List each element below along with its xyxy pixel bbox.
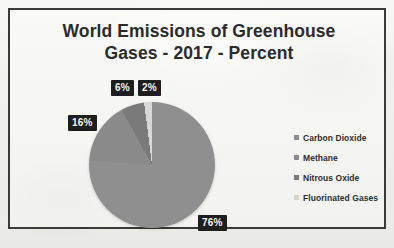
chart-title: World Emissions of Greenhouse Gases - 20… [28,20,370,64]
chart-screenshot: World Emissions of Greenhouse Gases - 20… [0,0,394,248]
legend-swatch-icon [294,135,299,140]
pie-chart [89,102,215,228]
legend-item-carbon-dioxide: Carbon Dioxide [294,130,394,145]
legend-item-methane: Methane [294,150,394,165]
chart-legend: Carbon Dioxide Methane Nitrous Oxide Flu… [294,130,394,210]
data-label-nitrous-oxide: 6% [111,80,134,96]
chart-title-line-2: Gases - 2017 - Percent [28,42,370,64]
legend-swatch-icon [294,155,299,160]
pie-slices [89,102,215,228]
legend-label-methane: Methane [303,153,338,163]
data-label-carbon-dioxide: 76% [198,215,227,231]
legend-item-fluorinated-gases: Fluorinated Gases [294,190,394,205]
legend-label-nitrous-oxide: Nitrous Oxide [303,173,359,183]
legend-swatch-icon [294,175,299,180]
chart-frame: World Emissions of Greenhouse Gases - 20… [8,8,386,229]
chart-title-line-1: World Emissions of Greenhouse [63,21,336,41]
legend-label-fluorinated-gases: Fluorinated Gases [303,193,378,203]
legend-swatch-icon [294,195,299,200]
legend-label-carbon-dioxide: Carbon Dioxide [303,133,367,143]
data-label-fluorinated-gases: 2% [138,80,161,96]
data-label-methane: 16% [68,115,97,131]
legend-item-nitrous-oxide: Nitrous Oxide [294,170,394,185]
